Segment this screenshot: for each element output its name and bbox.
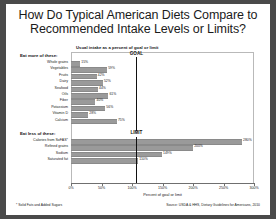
bar-value-label: 59% <box>108 66 115 72</box>
bar-row: Vegetables59% <box>20 66 268 72</box>
bar-row: Calories from SoFAS*280% <box>20 138 268 144</box>
bar-row: Potassium56% <box>20 105 268 111</box>
footnote: * Solid Fats and Added Sugars <box>16 203 62 207</box>
slide-canvas: How Do Typical American Diets Compare to… <box>6 4 270 215</box>
bar-category-label: Vegetables <box>20 66 68 72</box>
goal-reference-line <box>136 57 137 131</box>
title-line-2: Recommended Intake Levels or Limits? <box>6 23 270 37</box>
bar-row: Sodium149% <box>20 151 268 157</box>
bar-value-label: 200% <box>194 144 203 150</box>
bar-category-label: Refined grains <box>20 144 68 150</box>
goal-label: GOAL <box>130 51 143 56</box>
bar-rows: Whole grains15%Vegetables59%Fruits42%Dai… <box>20 45 268 197</box>
bar-category-label: Sodium <box>20 151 68 157</box>
bar-row: Seafood44% <box>20 86 268 92</box>
bar-value-label: 44% <box>99 86 106 92</box>
bar-value-label: 15% <box>81 60 88 66</box>
bar <box>71 158 138 164</box>
bar-row: Fiber40% <box>20 98 268 104</box>
title-line-1: How Do Typical American Diets Compare to <box>6 9 270 23</box>
bar-value-label: 42% <box>98 73 105 79</box>
bar-row: Refined grains200% <box>20 144 268 150</box>
bar-row: Calcium75% <box>20 118 268 124</box>
bar-value-label: 52% <box>104 79 111 85</box>
bar-category-label: Calories from SoFAS* <box>20 138 68 144</box>
bar-category-label: Saturated fat <box>20 157 68 163</box>
bar-row: Vitamin D28% <box>20 111 268 117</box>
limit-label: LIMIT <box>130 130 142 135</box>
bar-category-label: Seafood <box>20 86 68 92</box>
bar-value-label: 61% <box>109 92 116 98</box>
bar-value-label: 280% <box>243 138 252 144</box>
bar-value-label: 110% <box>139 157 147 163</box>
bar-row: Whole grains15% <box>20 60 268 66</box>
bar <box>71 119 117 125</box>
bar-category-label: Whole grains <box>20 60 68 66</box>
bar-value-label: 75% <box>118 118 125 124</box>
bar-row: Saturated fat110% <box>20 157 268 163</box>
bar-value-label: 149% <box>163 151 172 157</box>
bar-row: Dairy52% <box>20 79 268 85</box>
bar-row: Oils61% <box>20 92 268 98</box>
bar-value-label: 28% <box>89 111 96 117</box>
bar-value-label: 56% <box>106 105 113 111</box>
source-caption: Source: USDA & HHS, Dietary Guidelines f… <box>166 203 260 207</box>
bar-category-label: Vitamin D <box>20 111 68 117</box>
bar-category-label: Calcium <box>20 118 68 124</box>
bar-row: Fruits42% <box>20 73 268 79</box>
bar-category-label: Dairy <box>20 79 68 85</box>
bar-category-label: Fiber <box>20 98 68 104</box>
bar-category-label: Fruits <box>20 73 68 79</box>
page-title: How Do Typical American Diets Compare to… <box>6 4 270 36</box>
limit-reference-line <box>136 137 137 183</box>
chart-area: Usual intake as a percent of goal or lim… <box>20 45 268 197</box>
bar-category-label: Potassium <box>20 105 68 111</box>
bar-category-label: Oils <box>20 92 68 98</box>
bar-value-label: 40% <box>97 98 104 104</box>
